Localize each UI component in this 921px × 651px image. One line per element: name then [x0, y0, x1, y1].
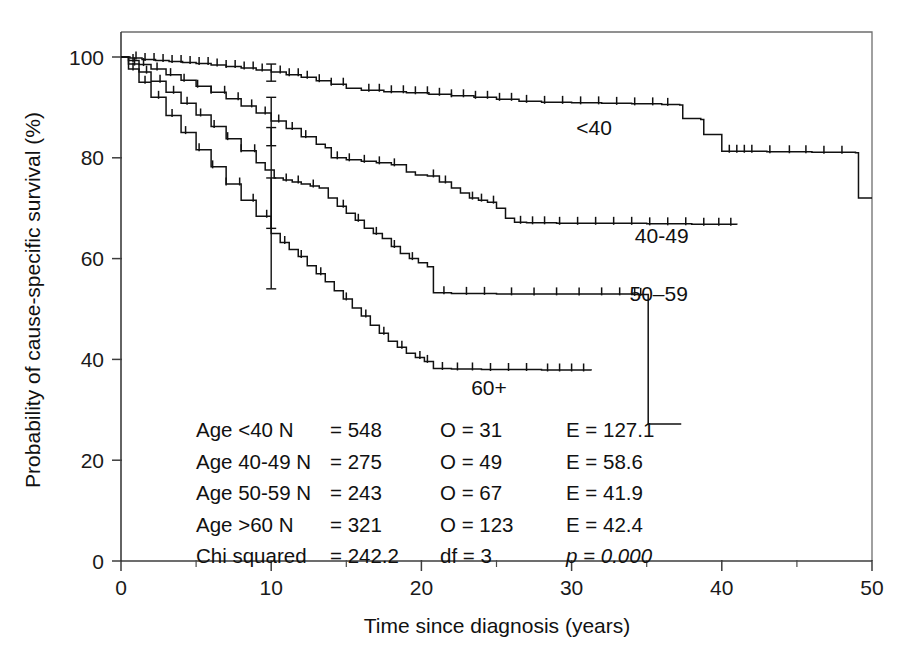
stats-observed-value: O = 67 — [440, 481, 502, 504]
curve-label-40-49: 40-49 — [635, 224, 689, 247]
stats-chisq-label: Chi squared — [196, 544, 307, 567]
y-axis-tick-label: 60 — [81, 247, 104, 270]
x-axis-tick-label: 30 — [560, 576, 583, 599]
stats-expected-value: E = 42.4 — [566, 513, 643, 536]
stats-group-label: Age >60 N — [196, 513, 293, 536]
stats-observed-value: O = 123 — [440, 513, 514, 536]
stats-group-label: Age 40-49 N — [196, 450, 311, 473]
survival-chart-figure: 020406080100 01020304050 <4040-4950–5960… — [0, 0, 921, 651]
stats-n-value: = 275 — [330, 450, 382, 473]
y-axis-tick-label: 100 — [69, 46, 104, 69]
x-axis-title: Time since diagnosis (years) — [364, 614, 630, 637]
y-axis-tick-label: 20 — [81, 449, 104, 472]
stats-p-value: p = 0.000 — [565, 544, 653, 567]
x-axis-tick-label: 20 — [410, 576, 433, 599]
x-axis-tick-label: 10 — [260, 576, 283, 599]
y-axis-tick-label: 80 — [81, 146, 104, 169]
y-axis-title: Probability of cause-specific survival (… — [21, 112, 44, 488]
stats-group-label: Age 50-59 N — [196, 481, 311, 504]
curve-label--40: <40 — [576, 116, 612, 139]
y-axis-tick-label: 0 — [92, 550, 104, 573]
stats-n-value: = 321 — [330, 513, 382, 536]
x-axis-tick-label: 0 — [115, 576, 127, 599]
x-axis-tick-label: 40 — [710, 576, 733, 599]
curve-label-60-: 60+ — [471, 376, 507, 399]
y-axis-tick-label: 40 — [81, 348, 104, 371]
stats-chisq-value: = 242.2 — [330, 544, 399, 567]
x-axis-tick-label: 50 — [860, 576, 883, 599]
stats-expected-value: E = 41.9 — [566, 481, 643, 504]
stats-n-value: = 548 — [330, 418, 382, 441]
stats-df-value: df = 3 — [440, 544, 492, 567]
curve-label-50-59: 50–59 — [630, 282, 688, 305]
stats-group-label: Age <40 N — [196, 418, 293, 441]
stats-observed-value: O = 49 — [440, 450, 502, 473]
kaplan-meier-plot: 020406080100 01020304050 <4040-4950–5960… — [0, 0, 921, 651]
stats-expected-value: E = 58.6 — [566, 450, 643, 473]
stats-n-value: = 243 — [330, 481, 382, 504]
stats-expected-value: E = 127.1 — [566, 418, 654, 441]
stats-observed-value: O = 31 — [440, 418, 502, 441]
